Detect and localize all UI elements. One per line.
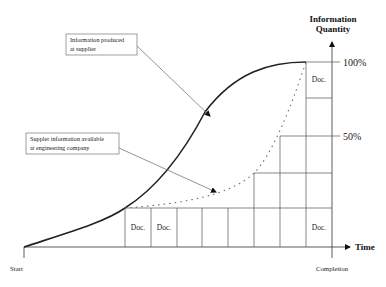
y-axis-title-line2: Quantity bbox=[316, 24, 351, 34]
callout-produced-line1: Information produced bbox=[70, 36, 125, 43]
supplier-production-curve bbox=[24, 62, 306, 247]
document-labels: Doc. Doc. Doc. Doc. bbox=[131, 75, 326, 232]
x-completion-label: Completion bbox=[316, 265, 349, 272]
y-tick-100: 100% bbox=[343, 57, 366, 68]
y-tick-50: 50% bbox=[343, 131, 361, 142]
callout-available-arrow bbox=[119, 148, 216, 192]
x-start-label: Start bbox=[10, 265, 23, 272]
callout-produced-line2: at supplier bbox=[70, 45, 96, 52]
callout-produced: Information produced at supplier bbox=[66, 34, 210, 116]
document-grid bbox=[125, 62, 340, 247]
y-axis-title-line1: Information bbox=[310, 14, 357, 24]
doc-label: Doc. bbox=[312, 223, 326, 232]
doc-label: Doc. bbox=[312, 75, 326, 84]
x-axis-title: Time bbox=[355, 242, 375, 252]
callout-produced-arrow bbox=[137, 46, 210, 116]
callout-available-line1: Suppler information available bbox=[30, 135, 104, 142]
doc-label: Doc. bbox=[157, 223, 171, 232]
callout-available-line2: at engineering company bbox=[30, 144, 90, 151]
information-quantity-diagram: Doc. Doc. Doc. Doc. Information produced… bbox=[0, 0, 386, 287]
doc-label: Doc. bbox=[131, 223, 145, 232]
